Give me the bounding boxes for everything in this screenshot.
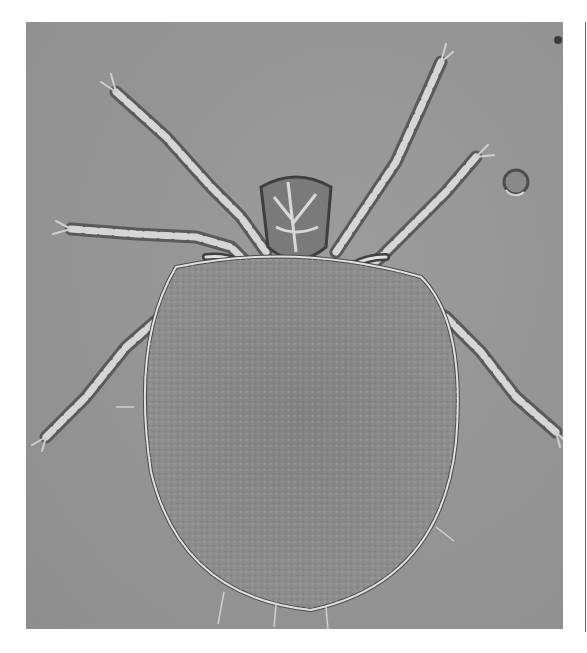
scan-edge-line — [585, 22, 586, 632]
mite-illustration — [26, 22, 563, 629]
mite-mouthparts — [261, 177, 331, 260]
mite-body — [116, 257, 458, 629]
speck — [554, 36, 562, 44]
air-bubble — [504, 170, 528, 195]
micrograph-photo — [26, 22, 563, 629]
